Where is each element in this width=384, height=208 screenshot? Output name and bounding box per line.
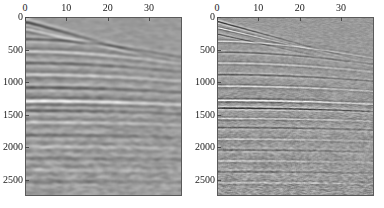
panel-left-seismic-image <box>26 18 181 195</box>
y-ticklabel-left-500: 500 <box>8 45 23 55</box>
y-tick-right-1000 <box>217 82 221 83</box>
y-tick-right-500 <box>217 50 221 51</box>
x-tick-left-30 <box>149 17 150 21</box>
y-ticklabel-left-1500: 1500 <box>3 110 23 120</box>
y-ticklabel-left-2000: 2000 <box>3 142 23 152</box>
y-ticklabel-left-1000: 1000 <box>3 77 23 87</box>
panel-left-plot-area <box>25 17 182 196</box>
y-ticklabel-left-2500: 2500 <box>3 175 23 185</box>
x-tick-right-20 <box>300 17 301 21</box>
y-tick-left-2500 <box>25 180 29 181</box>
y-ticklabel-right-0: 0 <box>210 12 215 22</box>
y-tick-right-2500 <box>217 180 221 181</box>
x-ticklabel-right-0: 0 <box>215 3 220 13</box>
x-ticklabel-left-20: 20 <box>103 3 113 13</box>
y-tick-right-1500 <box>217 115 221 116</box>
x-ticklabel-right-30: 30 <box>336 3 346 13</box>
seismic-figure: 010203005001000150020002500 010203005001… <box>0 0 384 208</box>
y-ticklabel-right-2500: 2500 <box>195 175 215 185</box>
y-tick-left-2000 <box>25 147 29 148</box>
x-ticklabel-left-30: 30 <box>144 3 154 13</box>
x-ticklabel-right-20: 20 <box>295 3 305 13</box>
panel-right-plot-area <box>217 17 374 196</box>
x-tick-left-10 <box>66 17 67 21</box>
y-tick-right-2000 <box>217 147 221 148</box>
y-ticklabel-left-0: 0 <box>18 12 23 22</box>
panel-right-seismic-image <box>218 18 373 195</box>
x-tick-right-10 <box>258 17 259 21</box>
x-tick-left-20 <box>108 17 109 21</box>
y-tick-right-0 <box>217 17 221 18</box>
y-ticklabel-right-500: 500 <box>200 45 215 55</box>
x-tick-right-30 <box>341 17 342 21</box>
y-ticklabel-right-2000: 2000 <box>195 142 215 152</box>
y-ticklabel-right-1000: 1000 <box>195 77 215 87</box>
x-ticklabel-left-10: 10 <box>61 3 71 13</box>
y-tick-left-1000 <box>25 82 29 83</box>
y-tick-left-1500 <box>25 115 29 116</box>
x-ticklabel-left-0: 0 <box>23 3 28 13</box>
x-ticklabel-right-10: 10 <box>253 3 263 13</box>
y-tick-left-500 <box>25 50 29 51</box>
panel-left: 010203005001000150020002500 <box>0 0 192 208</box>
y-ticklabel-right-1500: 1500 <box>195 110 215 120</box>
y-tick-left-0 <box>25 17 29 18</box>
panel-right: 010203005001000150020002500 <box>192 0 384 208</box>
